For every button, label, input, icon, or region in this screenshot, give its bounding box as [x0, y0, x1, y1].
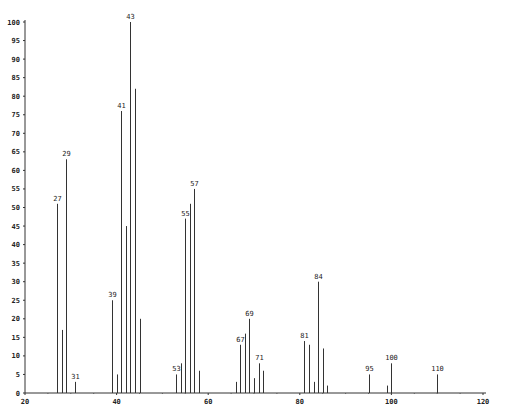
x-tick-label: 80 [296, 398, 304, 406]
peak-label: 31 [71, 373, 79, 381]
peak-label: 57 [190, 180, 198, 188]
y-tick-label: 85 [12, 74, 20, 82]
y-tick-label: 90 [12, 56, 20, 64]
y-axis-ticks: 0510152025303540455055606570758085909510… [7, 19, 25, 398]
peak-label: 69 [245, 310, 253, 318]
y-tick-label: 40 [12, 241, 20, 249]
peak-label: 100 [385, 354, 398, 362]
y-tick-label: 15 [12, 334, 20, 342]
chart-axes [25, 20, 486, 393]
peak-label: 43 [126, 13, 134, 21]
y-tick-label: 55 [12, 185, 20, 193]
mass-spectrum-chart: 0510152025303540455055606570758085909510… [0, 0, 506, 415]
x-tick-label: 120 [477, 398, 490, 406]
y-tick-label: 75 [12, 111, 20, 119]
peak-label: 55 [181, 210, 189, 218]
x-tick-label: 60 [204, 398, 212, 406]
peak-labels: 272931394143535557676971818495100110 [53, 13, 444, 381]
y-tick-label: 10 [12, 352, 20, 360]
y-tick-label: 20 [12, 315, 20, 323]
peak-label: 39 [108, 291, 116, 299]
y-tick-label: 70 [12, 130, 20, 138]
peak-label: 29 [62, 150, 70, 158]
x-tick-label: 40 [112, 398, 120, 406]
spectrum-peaks [58, 22, 438, 393]
peak-label: 110 [431, 365, 444, 373]
y-tick-label: 5 [16, 371, 20, 379]
y-tick-label: 35 [12, 260, 20, 268]
peak-label: 67 [236, 336, 244, 344]
y-tick-label: 65 [12, 148, 20, 156]
y-tick-label: 95 [12, 37, 20, 45]
x-tick-label: 100 [385, 398, 398, 406]
peak-label: 53 [172, 365, 180, 373]
y-tick-label: 0 [16, 390, 20, 398]
y-tick-label: 100 [7, 19, 20, 27]
y-tick-label: 25 [12, 297, 20, 305]
peak-label: 84 [314, 273, 322, 281]
y-tick-label: 60 [12, 167, 20, 175]
peak-label: 27 [53, 195, 61, 203]
y-tick-label: 30 [12, 278, 20, 286]
peak-label: 81 [300, 332, 308, 340]
peak-label: 71 [255, 354, 263, 362]
y-tick-label: 80 [12, 93, 20, 101]
x-tick-label: 20 [21, 398, 29, 406]
peak-label: 41 [117, 102, 125, 110]
peak-label: 95 [365, 365, 373, 373]
y-tick-label: 45 [12, 223, 20, 231]
x-axis-ticks: 20406080100120 [21, 393, 490, 406]
y-tick-label: 50 [12, 204, 20, 212]
